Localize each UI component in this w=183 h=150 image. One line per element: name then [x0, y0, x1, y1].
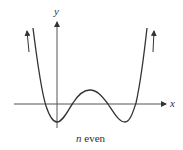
caption-text: even	[82, 132, 106, 144]
y-axis-label: y	[54, 5, 59, 17]
right-end-arrow-icon	[153, 31, 154, 52]
left-end-arrow-icon	[27, 31, 29, 52]
x-axis-label: x	[170, 97, 175, 109]
polynomial-graph	[0, 0, 183, 150]
figure-caption: n even	[76, 132, 105, 144]
polynomial-curve	[33, 28, 147, 122]
